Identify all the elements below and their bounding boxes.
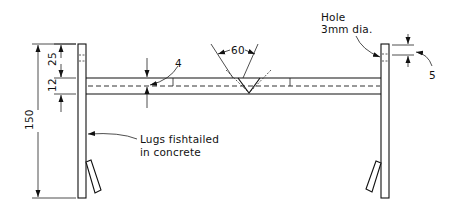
hole-label-line1: Hole <box>321 11 346 23</box>
lugs-label-line1: Lugs fishtailed <box>140 133 219 145</box>
lugs-label-line2: in concrete <box>140 146 201 158</box>
dim-12-label: 12 <box>46 78 58 92</box>
hole-offset-dimension <box>392 34 432 67</box>
right-post <box>381 44 389 198</box>
notch-angle-label: 60 <box>231 44 245 56</box>
lugs-leader <box>88 134 137 139</box>
right-lug <box>366 161 381 192</box>
groove-depth-label: 4 <box>175 57 182 69</box>
dim-25-label: 25 <box>46 52 58 66</box>
dim-150-label: 150 <box>23 109 35 130</box>
hole-offset-label: 5 <box>429 69 436 81</box>
hole-leader <box>356 36 380 57</box>
drawing-canvas: 60 4 25 12 150 Lugs fishtailed in concre… <box>0 0 461 212</box>
overall-height-dimension <box>32 44 76 198</box>
left-lug <box>86 160 101 193</box>
left-post <box>78 44 86 198</box>
beam <box>86 78 381 94</box>
hole-label-line2: 3mm dia. <box>321 23 372 35</box>
